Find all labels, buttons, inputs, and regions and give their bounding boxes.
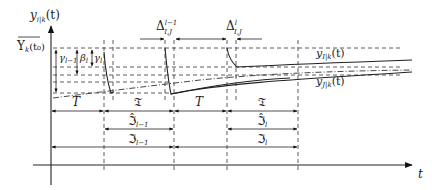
label-I: ℑl: [257, 132, 267, 147]
gamma-prev-label: γl−1: [59, 52, 78, 65]
label-I-prev: ℑl−1: [128, 132, 149, 147]
beta-label: βl: [79, 52, 88, 65]
label-Ihat-prev: ℑ̂l−1: [128, 113, 149, 129]
label-T-1: T: [72, 95, 81, 109]
y-axis-label: yi|k(t): [29, 8, 60, 24]
label-frakT-2: 𝔗: [258, 95, 266, 109]
curve-I-label: yI|k(t): [315, 47, 345, 61]
gamma-label: γl: [94, 52, 102, 65]
upsilon-label: Υk(t₀): [16, 39, 45, 54]
timing-diagram: yi|k(t) t Υk(t₀) Δl−1I,J ΔlI,J γl−1 βl γ…: [0, 0, 432, 190]
label-frakT-1: 𝔗: [134, 95, 142, 109]
delta-label: ΔlI,J: [226, 19, 243, 36]
x-axis-label: t: [418, 167, 423, 181]
curve-y-I: [104, 48, 412, 94]
delta-prev-label: Δl−1I,J: [156, 19, 177, 36]
label-Ihat: ℑ̂l: [257, 113, 267, 129]
label-T-2: T: [195, 95, 204, 109]
